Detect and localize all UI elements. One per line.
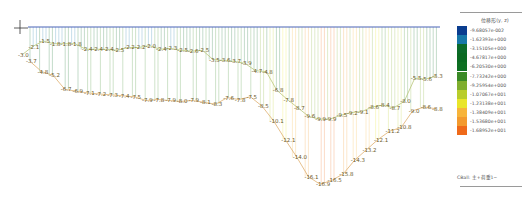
displacement-value-label: -2.0	[145, 43, 156, 49]
legend-entry: -7.73242e+000	[457, 72, 506, 81]
load-case-label: CBall: 主+荷重1~	[457, 174, 497, 180]
legend-entry: -1.68952e+001	[457, 126, 506, 135]
displacement-value-label: -2.4	[103, 46, 114, 52]
contour-legend: 位移形(y, z) -9.68057e-002-1.62393e+000-3.1…	[455, 10, 528, 197]
displacement-value-label: -7.9	[188, 97, 199, 103]
displacement-value-label: -4.8	[262, 69, 273, 75]
displacement-value-label: -8.1	[200, 99, 211, 105]
displacement-value-label: -16.1	[304, 174, 318, 180]
model-viewport[interactable]: -3.0-2.1-1.5-1.8-1.8-1.8-2.4-2.4-2.4-2.5…	[0, 0, 448, 197]
legend-value: -1.38409e+001	[470, 110, 506, 115]
legend-top-rule	[460, 12, 522, 13]
displacement-value-label: -3.6	[220, 57, 231, 63]
displacement-value-label: -1.8	[71, 41, 82, 47]
displacement-value-label: -1.5	[39, 38, 50, 44]
displacement-value-label: -9.6	[305, 113, 316, 119]
legend-swatch	[457, 117, 467, 126]
displacement-value-label: -8.0	[400, 98, 411, 104]
legend-entry: -9.68057e-002	[457, 26, 504, 35]
legend-entry: -1.53680e+001	[457, 117, 506, 126]
displacement-value-label: -5.6	[421, 76, 432, 82]
displacement-value-label: -8.7	[390, 105, 401, 111]
displacement-diagram: -3.0-2.1-1.5-1.8-1.8-1.8-2.4-2.4-2.4-2.5…	[0, 0, 448, 197]
legend-value: -1.23138e+001	[470, 101, 506, 106]
displacement-value-label: -9.5	[336, 112, 347, 118]
legend-value: -1.68952e+001	[470, 128, 506, 133]
legend-swatch	[457, 72, 467, 81]
legend-entry: -1.38409e+001	[457, 108, 506, 117]
displacement-value-label: -4.7	[252, 68, 263, 74]
displacement-value-label: -1.8	[60, 41, 71, 47]
displacement-value-label: -12.1	[374, 137, 388, 143]
displacement-value-label: -9.9	[326, 116, 337, 122]
displacement-value-label: -10.1	[270, 118, 284, 124]
legend-swatch	[457, 126, 467, 135]
displacement-value-label: -7.4	[119, 93, 130, 99]
displacement-value-label: -12.1	[281, 137, 295, 143]
legend-swatch	[457, 90, 467, 99]
displacement-value-label: -3.0	[18, 52, 29, 58]
displacement-value-label: -7.3	[107, 92, 118, 98]
displacement-value-label: -9.0	[409, 108, 420, 114]
legend-swatch	[457, 35, 467, 44]
legend-swatch	[457, 62, 467, 71]
displacement-value-label: -13.2	[362, 147, 376, 153]
displacement-value-label: -5.3	[432, 73, 443, 79]
displacement-value-label: -2.5	[114, 47, 125, 53]
displacement-value-label: -8.6	[420, 104, 431, 110]
legend-entry: -4.67817e+000	[457, 53, 506, 62]
displacement-value-label: -2.3	[167, 45, 178, 51]
displacement-value-label: -4.8	[38, 69, 49, 75]
displacement-value-label: -8.3	[212, 101, 223, 107]
legend-value: -1.07067e+001	[470, 92, 506, 97]
legend-swatch	[457, 99, 467, 108]
legend-bottom-rule	[460, 186, 522, 187]
legend-value: -6.20530e+000	[470, 64, 506, 69]
displacement-value-label: -7.5	[130, 94, 141, 100]
displacement-value-label: -8.8	[432, 106, 443, 112]
displacement-value-label: -14.3	[351, 157, 366, 163]
displacement-value-label: -8.5	[258, 103, 269, 109]
displacement-value-label: -9.9	[315, 116, 326, 122]
displacement-value-label: -7.8	[283, 97, 294, 103]
legend-entry: -1.23138e+001	[457, 99, 506, 108]
value-labels: -3.0-2.1-1.5-1.8-1.8-1.8-2.4-2.4-2.4-2.5…	[18, 38, 443, 187]
displacement-value-label: -2.2	[124, 44, 135, 50]
legend-value: -3.15105e+000	[470, 46, 506, 51]
displacement-value-label: -7.5	[246, 94, 257, 100]
legend-title: 位移形(y, z)	[465, 16, 525, 23]
displacement-value-label: -7.9	[142, 97, 153, 103]
legend-swatch	[457, 26, 467, 35]
displacement-value-label: -7.9	[165, 97, 176, 103]
legend-value: -9.25954e+000	[470, 83, 506, 88]
displacement-value-label: -8.4	[379, 102, 390, 108]
legend-swatch	[457, 108, 467, 117]
legend-entry: -1.07067e+001	[457, 90, 506, 99]
legend-value: -1.62393e+000	[470, 37, 506, 42]
displacement-value-label: -2.4	[82, 46, 93, 52]
legend-value: -9.68057e-002	[470, 28, 504, 33]
displacement-value-label: -7.8	[154, 97, 165, 103]
legend-entry: -9.25954e+000	[457, 81, 506, 90]
displacement-value-label: -9.2	[347, 110, 358, 116]
legend-entry: -3.15105e+000	[457, 44, 506, 53]
displacement-value-label: -7.6	[223, 95, 234, 101]
legend-value: -1.53680e+001	[470, 119, 506, 124]
displacement-value-label: -5.2	[49, 72, 60, 78]
legend-value: -7.73242e+000	[470, 74, 506, 79]
displacement-value-label: -7.2	[96, 91, 107, 97]
displacement-value-label: -2.5	[177, 47, 188, 53]
displacement-value-label: -16.5	[328, 177, 343, 183]
displacement-value-label: -5.5	[411, 75, 422, 81]
displacement-value-label: -8.6	[368, 104, 379, 110]
displacement-value-label: -6.9	[72, 88, 83, 94]
displacement-value-label: -15.8	[339, 171, 354, 177]
displacement-value-label: -9.1	[358, 109, 369, 115]
displacement-value-label: -3.9	[241, 60, 252, 66]
axis-triad-icon	[14, 20, 28, 34]
displacement-value-label: -3.7	[26, 58, 37, 64]
displacement-value-label: -2.6	[188, 48, 199, 54]
displacement-value-label: -2.4	[92, 46, 103, 52]
displacement-value-label: -7.1	[84, 90, 95, 96]
displacement-value-label: -6.8	[273, 87, 284, 93]
